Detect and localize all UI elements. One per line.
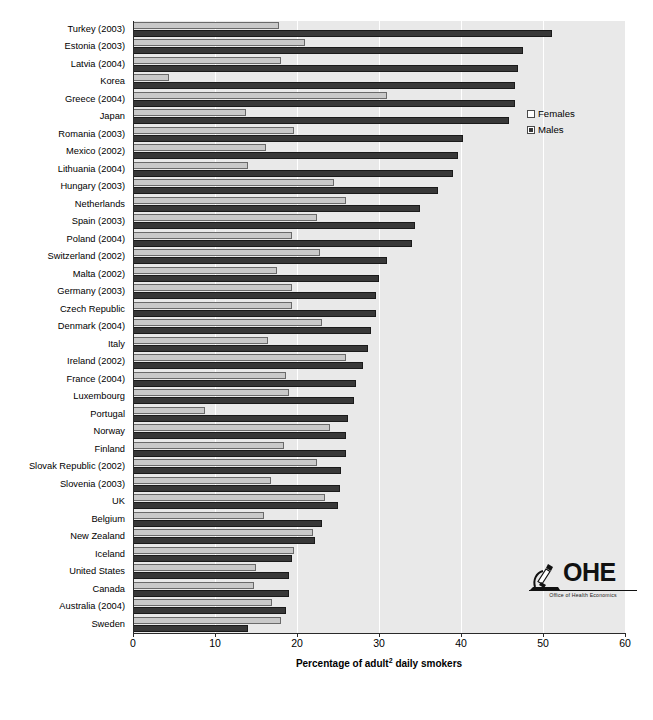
x-tick-label: 20: [291, 637, 303, 649]
bar-row: [133, 248, 625, 267]
bar-males[interactable]: [133, 555, 292, 562]
legend-item-females[interactable]: Females: [527, 108, 575, 119]
bar-males[interactable]: [133, 485, 340, 492]
bar-females[interactable]: [133, 564, 256, 571]
bar-females[interactable]: [133, 599, 272, 606]
bar-females[interactable]: [133, 389, 289, 396]
bar-females[interactable]: [133, 74, 169, 81]
bar-females[interactable]: [133, 529, 313, 536]
bar-males[interactable]: [133, 432, 346, 439]
category-label: Denmark (2004): [58, 318, 125, 335]
bar-males[interactable]: [133, 310, 376, 317]
bar-females[interactable]: [133, 197, 346, 204]
bar-males[interactable]: [133, 275, 379, 282]
bar-females[interactable]: [133, 494, 325, 501]
bar-females[interactable]: [133, 319, 322, 326]
category-label: Spain (2003): [72, 213, 125, 230]
x-axis-title: Percentage of adult2 daily smokers: [133, 657, 625, 669]
bar-females[interactable]: [133, 582, 254, 589]
bar-row: [133, 353, 625, 372]
bar-females[interactable]: [133, 39, 305, 46]
bar-females[interactable]: [133, 407, 205, 414]
bar-row: [133, 423, 625, 442]
bar-row: [133, 283, 625, 302]
bar-row: [133, 196, 625, 215]
bar-males[interactable]: [133, 362, 363, 369]
bar-males[interactable]: [133, 625, 248, 632]
bar-males[interactable]: [133, 65, 518, 72]
bar-males[interactable]: [133, 135, 463, 142]
legend: Females Males: [527, 108, 575, 140]
bar-males[interactable]: [133, 467, 341, 474]
bar-females[interactable]: [133, 617, 281, 624]
bar-females[interactable]: [133, 232, 292, 239]
bar-females[interactable]: [133, 424, 330, 431]
bar-row: [133, 231, 625, 250]
bar-males[interactable]: [133, 30, 552, 37]
bar-females[interactable]: [133, 302, 292, 309]
category-label: Lithuania (2004): [58, 161, 125, 178]
bar-males[interactable]: [133, 152, 458, 159]
bar-males[interactable]: [133, 240, 412, 247]
bar-females[interactable]: [133, 512, 264, 519]
bar-males[interactable]: [133, 257, 387, 264]
smoking-prevalence-bar-chart: Turkey (2003)Estonia (2003)Latvia (2004)…: [0, 0, 653, 720]
bar-females[interactable]: [133, 372, 286, 379]
legend-label-males: Males: [538, 124, 564, 135]
bar-males[interactable]: [133, 397, 354, 404]
bar-females[interactable]: [133, 109, 246, 116]
bar-females[interactable]: [133, 127, 294, 134]
bar-row: [133, 301, 625, 320]
bar-males[interactable]: [133, 327, 371, 334]
bar-row: [133, 73, 625, 92]
bar-males[interactable]: [133, 100, 515, 107]
bar-males[interactable]: [133, 82, 515, 89]
category-label: Romania (2003): [58, 126, 125, 143]
bar-females[interactable]: [133, 459, 317, 466]
bar-females[interactable]: [133, 22, 279, 29]
bar-males[interactable]: [133, 590, 289, 597]
bar-females[interactable]: [133, 547, 294, 554]
bar-females[interactable]: [133, 477, 271, 484]
bar-males[interactable]: [133, 292, 376, 299]
bar-row: [133, 511, 625, 530]
bar-males[interactable]: [133, 572, 289, 579]
legend-item-males[interactable]: Males: [527, 124, 575, 135]
bar-males[interactable]: [133, 450, 346, 457]
bar-females[interactable]: [133, 284, 292, 291]
bar-males[interactable]: [133, 170, 453, 177]
bar-row: [133, 266, 625, 285]
bar-males[interactable]: [133, 187, 438, 194]
bar-males[interactable]: [133, 47, 523, 54]
bar-row: [133, 371, 625, 390]
bar-females[interactable]: [133, 442, 284, 449]
bar-females[interactable]: [133, 92, 387, 99]
bar-males[interactable]: [133, 415, 348, 422]
bar-males[interactable]: [133, 205, 420, 212]
bar-row: [133, 458, 625, 477]
bar-males[interactable]: [133, 222, 415, 229]
bar-row: [133, 38, 625, 57]
bar-females[interactable]: [133, 354, 346, 361]
bar-males[interactable]: [133, 537, 315, 544]
bar-females[interactable]: [133, 144, 266, 151]
bar-row: [133, 336, 625, 355]
bar-males[interactable]: [133, 502, 338, 509]
bar-males[interactable]: [133, 607, 286, 614]
bar-row: [133, 56, 625, 75]
bar-females[interactable]: [133, 179, 334, 186]
category-label: Estonia (2003): [65, 38, 125, 55]
bar-males[interactable]: [133, 345, 368, 352]
x-tick-label: 50: [537, 637, 549, 649]
category-label: Mexico (2002): [66, 143, 125, 160]
bar-males[interactable]: [133, 117, 509, 124]
bar-females[interactable]: [133, 57, 281, 64]
bar-females[interactable]: [133, 337, 268, 344]
bar-females[interactable]: [133, 267, 277, 274]
bar-males[interactable]: [133, 520, 322, 527]
bar-males[interactable]: [133, 380, 356, 387]
bar-females[interactable]: [133, 162, 248, 169]
bar-females[interactable]: [133, 214, 317, 221]
bar-females[interactable]: [133, 249, 320, 256]
bar-row: [133, 21, 625, 40]
